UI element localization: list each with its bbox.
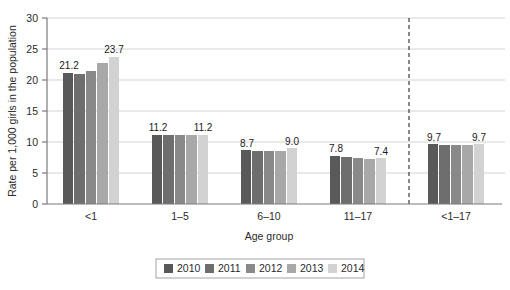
bar-2011-11-17 bbox=[341, 157, 351, 204]
value-label-lt1-2010: 21.2 bbox=[59, 60, 79, 71]
bar-2011-6-10 bbox=[252, 151, 262, 204]
x-axis-title: Age group bbox=[245, 230, 294, 242]
bar-2011-1-5 bbox=[163, 135, 173, 204]
y-tick-label-30: 30 bbox=[26, 12, 38, 24]
bar-2010-11-17 bbox=[330, 156, 340, 204]
bar-2010-1-5 bbox=[152, 135, 162, 204]
value-label-lt1-17-2010: 9.7 bbox=[427, 132, 441, 143]
y-tick-label-5: 5 bbox=[32, 167, 38, 179]
legend-swatch-2014[interactable] bbox=[328, 264, 337, 273]
x-tick-label-1-5: 1–5 bbox=[171, 210, 189, 222]
value-label-6-10-2014: 9.0 bbox=[285, 136, 299, 147]
value-label-1-5-2014: 11.2 bbox=[194, 122, 213, 133]
value-label-1-5-2010: 11.2 bbox=[149, 122, 168, 133]
bar-2013-lt1-17 bbox=[462, 145, 472, 204]
legend-label-2012[interactable]: 2012 bbox=[259, 262, 283, 274]
legend-swatch-2012[interactable] bbox=[246, 264, 255, 273]
bar-2012-lt1 bbox=[86, 71, 96, 204]
value-label-11-17-2014: 7.4 bbox=[374, 146, 388, 157]
bar-2010-6-10 bbox=[241, 150, 251, 204]
bar-chart: 30 25 20 15 10 5 0 Rate per 1,000 girls … bbox=[0, 0, 510, 290]
bar-2012-11-17 bbox=[353, 158, 363, 205]
value-label-lt1-2014: 23.7 bbox=[104, 44, 124, 55]
bar-2013-1-5 bbox=[186, 135, 196, 204]
legend-label-2011[interactable]: 2011 bbox=[218, 262, 241, 274]
y-tick-label-20: 20 bbox=[26, 74, 38, 86]
value-label-11-17-2010: 7.8 bbox=[329, 143, 343, 154]
y-axis bbox=[42, 18, 47, 204]
bar-group-1-5 bbox=[152, 135, 208, 204]
bar-2011-lt1-17 bbox=[439, 145, 449, 204]
value-label-lt1-17-2014: 9.7 bbox=[472, 132, 486, 143]
y-tick-label-15: 15 bbox=[26, 105, 38, 117]
y-tick-labels: 30 25 20 15 10 5 0 bbox=[26, 12, 38, 210]
y-axis-title: Rate per 1,000 girls in the population bbox=[6, 25, 18, 197]
x-tick-label-11-17: 11–17 bbox=[344, 210, 373, 222]
bar-2012-1-5 bbox=[175, 135, 185, 204]
legend-swatch-2011[interactable] bbox=[205, 264, 214, 273]
bar-2014-lt1 bbox=[109, 57, 119, 204]
bar-2014-11-17 bbox=[376, 158, 386, 204]
legend-label-2014[interactable]: 2014 bbox=[341, 262, 365, 274]
bar-2013-6-10 bbox=[275, 151, 285, 204]
bar-2010-lt1 bbox=[63, 73, 73, 205]
legend-label-2010[interactable]: 2010 bbox=[177, 262, 201, 274]
x-tick-label-lt1-17: <1–17 bbox=[441, 210, 471, 222]
x-tick-label-6-10: 6–10 bbox=[257, 210, 281, 222]
bar-2010-lt1-17 bbox=[428, 144, 438, 204]
legend-swatch-2010[interactable] bbox=[164, 264, 173, 273]
bar-2012-6-10 bbox=[264, 151, 274, 204]
bar-group-lt1-17 bbox=[428, 144, 484, 204]
bar-group-11-17 bbox=[330, 156, 386, 204]
value-label-6-10-2010: 8.7 bbox=[240, 138, 254, 149]
bar-2011-lt1 bbox=[74, 74, 84, 204]
bar-group-6-10 bbox=[241, 148, 297, 204]
legend-label-2013[interactable]: 2013 bbox=[300, 262, 324, 274]
bar-2012-lt1-17 bbox=[451, 145, 461, 204]
x-tick-label-lt1: <1 bbox=[85, 210, 97, 222]
bar-2013-lt1 bbox=[97, 63, 107, 204]
legend: 2010 2011 2012 2013 2014 bbox=[156, 259, 365, 278]
y-tick-label-10: 10 bbox=[26, 136, 38, 148]
bar-2014-1-5 bbox=[198, 135, 208, 204]
y-tick-label-25: 25 bbox=[26, 43, 38, 55]
y-tick-label-0: 0 bbox=[32, 198, 38, 210]
bar-group-lt1 bbox=[63, 57, 119, 204]
value-labels: 21.2 23.7 11.2 11.2 8.7 9.0 7.8 7.4 9.7 … bbox=[59, 44, 486, 157]
chart-svg: 30 25 20 15 10 5 0 Rate per 1,000 girls … bbox=[0, 0, 510, 290]
x-tick-labels: <1 1–5 6–10 11–17 <1–17 bbox=[85, 210, 471, 222]
bar-2014-lt1-17 bbox=[474, 144, 484, 204]
bar-2014-6-10 bbox=[287, 148, 297, 204]
legend-swatch-2013[interactable] bbox=[287, 264, 296, 273]
bar-2013-11-17 bbox=[364, 159, 374, 204]
